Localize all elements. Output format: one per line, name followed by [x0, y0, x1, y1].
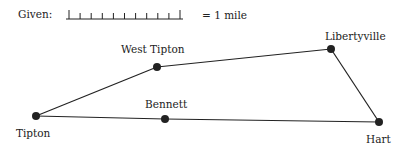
map-canvas: [0, 0, 402, 151]
scale-text: = 1 mile: [202, 10, 247, 21]
road-tipton-bennett: [36, 116, 165, 119]
road-bennett-hart: [165, 119, 379, 122]
town-marker-west-tipton: [153, 63, 161, 71]
town-marker-libertyville: [327, 45, 335, 53]
scale-bar: [66, 10, 183, 19]
town-marker-bennett: [161, 115, 169, 123]
town-marker-hart: [375, 118, 383, 126]
town-label-libertyville: Libertyville: [325, 31, 386, 42]
town-label-west-tipton: West Tipton: [121, 44, 184, 55]
town-markers: [32, 45, 383, 126]
town-label-bennett: Bennett: [145, 99, 187, 110]
town-label-tipton: Tipton: [16, 128, 50, 139]
roads: [36, 49, 379, 122]
road-tipton-west-tipton: [36, 67, 157, 116]
road-libertyville-hart: [331, 49, 379, 122]
town-marker-tipton: [32, 112, 40, 120]
town-label-hart: Hart: [366, 134, 391, 145]
